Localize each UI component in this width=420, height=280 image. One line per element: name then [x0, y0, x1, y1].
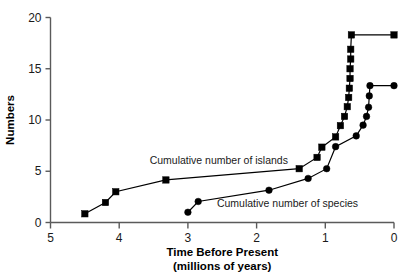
data-point-circle: [195, 198, 202, 205]
data-point-square: [332, 134, 338, 140]
series-line-circle: [188, 86, 394, 213]
y-tick-label: 20: [28, 11, 42, 25]
data-point-circle: [332, 143, 339, 150]
x-axis-subtitle: (millions of years): [173, 260, 272, 272]
data-point-square: [344, 103, 350, 109]
data-point-square: [337, 122, 343, 128]
data-point-square: [345, 94, 351, 100]
y-tick-label: 10: [28, 113, 42, 127]
data-point-square: [347, 66, 353, 72]
data-point-square: [82, 211, 88, 217]
data-point-square: [341, 113, 347, 119]
data-point-circle: [366, 93, 373, 100]
y-tick-label: 0: [35, 216, 42, 230]
data-point-square: [348, 46, 354, 52]
data-point-circle: [305, 175, 312, 182]
data-point-circle: [323, 165, 330, 172]
y-tick-label: 15: [28, 62, 42, 76]
data-point-circle: [365, 104, 372, 111]
data-point-circle: [185, 209, 192, 216]
x-tick-label: 2: [253, 231, 260, 245]
data-point-square: [163, 177, 169, 183]
data-point-circle: [353, 133, 360, 140]
y-tick-label: 5: [35, 164, 42, 178]
data-point-circle: [266, 187, 273, 194]
data-point-square: [348, 32, 354, 38]
x-tick-label: 4: [116, 231, 123, 245]
x-tick-label: 5: [47, 231, 54, 245]
x-axis-title: Time Before Present: [166, 246, 278, 258]
data-point-square: [348, 56, 354, 62]
x-tick-label: 3: [185, 231, 192, 245]
data-point-square: [319, 144, 325, 150]
data-point-square: [102, 199, 108, 205]
data-point-square: [296, 165, 302, 171]
data-point-square: [347, 75, 353, 81]
series-annotation-1: Cumulative number of species: [217, 197, 358, 209]
data-point-circle: [360, 122, 367, 129]
data-point-circle: [363, 113, 370, 120]
y-axis-title: Numbers: [4, 95, 16, 145]
series-annotation-0: Cumulative number of islands: [150, 154, 288, 166]
chart-figure: 05101520543210Time Before Present(millio…: [0, 0, 420, 280]
data-point-square: [314, 154, 320, 160]
chart-plot-area: 05101520543210Time Before Present(millio…: [0, 0, 420, 280]
data-point-square: [346, 85, 352, 91]
data-point-circle: [367, 82, 374, 89]
data-point-circle: [391, 82, 398, 89]
data-point-square: [391, 32, 397, 38]
x-tick-label: 1: [322, 231, 329, 245]
data-point-square: [113, 189, 119, 195]
x-tick-label: 0: [391, 231, 398, 245]
